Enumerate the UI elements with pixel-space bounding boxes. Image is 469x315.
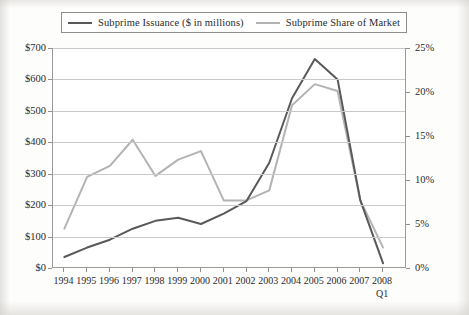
plot-area bbox=[52, 48, 406, 268]
y-axis-left-tick-label: $200 bbox=[0, 200, 46, 210]
legend-label-share: Subprime Share of Market bbox=[286, 17, 400, 28]
y-axis-right-tick bbox=[406, 136, 410, 137]
legend-entry-subprime-issuance: Subprime Issuance ($ in millions) bbox=[68, 17, 244, 28]
x-axis-tick bbox=[132, 268, 133, 272]
x-axis-tick bbox=[291, 268, 292, 272]
y-axis-right-tick-label: 5% bbox=[415, 219, 429, 229]
legend-swatch-share bbox=[256, 22, 280, 24]
gridline bbox=[53, 205, 405, 206]
x-axis-tick bbox=[382, 268, 383, 272]
chart-page: Subprime Issuance ($ in millions) Subpri… bbox=[0, 0, 469, 315]
y-axis-right-tick bbox=[406, 48, 410, 49]
legend-swatch-issuance bbox=[68, 22, 92, 24]
x-axis-tick bbox=[223, 268, 224, 272]
x-axis-tick-label: 2008 bbox=[367, 275, 397, 286]
y-axis-right-tick-label: 20% bbox=[415, 87, 434, 97]
y-axis-left-tick-label: $600 bbox=[0, 74, 46, 84]
gridline bbox=[53, 174, 405, 175]
x-axis-tick bbox=[154, 268, 155, 272]
x-axis-tick bbox=[359, 268, 360, 272]
y-axis-right-tick bbox=[406, 180, 410, 181]
series-line-subprime-share bbox=[64, 84, 383, 247]
x-axis-tick bbox=[109, 268, 110, 272]
gridline bbox=[53, 48, 405, 49]
gridline bbox=[53, 237, 405, 238]
chart-legend: Subprime Issuance ($ in millions) Subpri… bbox=[61, 12, 407, 33]
x-axis-tick bbox=[268, 268, 269, 272]
y-axis-left: $700$600$500$400$300$200$100$0 bbox=[0, 48, 46, 268]
y-axis-left-tick-label: $100 bbox=[0, 232, 46, 242]
x-axis: 1994199519961997199819992000200120022003… bbox=[52, 268, 406, 308]
y-axis-left-tick-label: $700 bbox=[0, 43, 46, 53]
chart-lines bbox=[53, 48, 407, 268]
y-axis-left-tick-label: $500 bbox=[0, 106, 46, 116]
y-axis-right-tick-label: 0% bbox=[415, 263, 429, 273]
x-axis-tick bbox=[177, 268, 178, 272]
y-axis-right-tick-label: 15% bbox=[415, 131, 434, 141]
x-axis-tick bbox=[86, 268, 87, 272]
gridline bbox=[53, 142, 405, 143]
y-axis-left-tick-label: $300 bbox=[0, 169, 46, 179]
y-axis-right: 25%20%15%10%5%0% bbox=[406, 48, 458, 268]
gridline bbox=[53, 79, 405, 80]
y-axis-right-tick bbox=[406, 92, 410, 93]
legend-label-issuance: Subprime Issuance ($ in millions) bbox=[98, 17, 244, 28]
y-axis-right-tick-label: 10% bbox=[415, 175, 434, 185]
x-axis-tick bbox=[314, 268, 315, 272]
x-axis-sublabel: Q1 bbox=[367, 288, 397, 299]
x-axis-tick bbox=[246, 268, 247, 272]
y-axis-right-tick-label: 25% bbox=[415, 43, 434, 53]
x-axis-tick bbox=[63, 268, 64, 272]
y-axis-left-tick-label: $0 bbox=[0, 263, 46, 273]
legend-entry-subprime-share: Subprime Share of Market bbox=[256, 17, 400, 28]
x-axis-tick bbox=[200, 268, 201, 272]
y-axis-right-tick bbox=[406, 224, 410, 225]
gridline bbox=[53, 111, 405, 112]
x-axis-tick bbox=[337, 268, 338, 272]
y-axis-right-tick bbox=[406, 268, 410, 269]
y-axis-left-tick-label: $400 bbox=[0, 137, 46, 147]
